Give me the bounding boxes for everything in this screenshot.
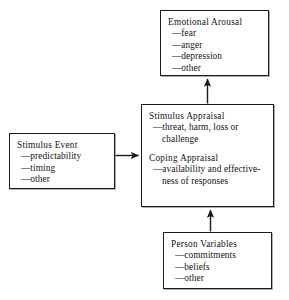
list-item-label: beliefs	[184, 262, 209, 272]
list-item-label: commitments	[184, 250, 236, 260]
list-item-label: depression	[181, 51, 222, 61]
emotional-arousal-list: —fear —anger —depression —other	[168, 28, 261, 74]
appraisal-section-divider	[149, 145, 266, 152]
stimulus-appraisal-heading: Stimulus Appraisal	[149, 110, 266, 122]
list-item: —depression	[168, 51, 261, 63]
box-person-variables: Person Variables —commitments —beliefs —…	[163, 232, 272, 289]
list-item: —other	[17, 174, 107, 186]
box-emotional-arousal: Emotional Arousal —fear —anger —depressi…	[160, 10, 269, 76]
stimulus-appraisal-list: —threat, harm, loss or challenge	[149, 122, 266, 145]
list-item: —other	[168, 63, 261, 75]
list-item: —timing	[17, 163, 107, 175]
list-item-label: other	[181, 63, 201, 73]
box-appraisal: Stimulus Appraisal —threat, harm, loss o…	[141, 104, 274, 207]
list-item: —other	[171, 273, 264, 285]
list-item: —threat, harm, loss or challenge	[149, 122, 266, 145]
box-stimulus-event: Stimulus Event —predictability —timing —…	[9, 133, 115, 189]
list-item-label: threat, harm, loss or challenge	[162, 122, 239, 144]
list-item-label: other	[30, 174, 50, 184]
list-item-label: fear	[181, 28, 196, 38]
list-item-label: other	[184, 273, 204, 283]
list-item: —fear	[168, 28, 261, 40]
list-item: —anger	[168, 40, 261, 52]
list-item: —predictability	[17, 151, 107, 163]
list-item-label: predictability	[30, 151, 81, 161]
list-item-label: timing	[30, 163, 55, 173]
person-variables-list: —commitments —beliefs —other	[171, 250, 264, 285]
person-variables-heading: Person Variables	[171, 238, 264, 250]
coping-appraisal-heading: Coping Appraisal	[149, 152, 266, 164]
emotional-arousal-heading: Emotional Arousal	[168, 16, 261, 28]
coping-appraisal-list: —availability and effective-ness of resp…	[149, 164, 266, 187]
list-item: —beliefs	[171, 262, 264, 274]
list-item-label: anger	[181, 40, 202, 50]
appraisal-model-diagram: Emotional Arousal —fear —anger —depressi…	[0, 0, 289, 300]
list-item-label: availability and effective-ness of respo…	[162, 164, 260, 186]
stimulus-event-heading: Stimulus Event	[17, 139, 107, 151]
stimulus-event-list: —predictability —timing —other	[17, 151, 107, 186]
list-item: —availability and effective-ness of resp…	[149, 164, 266, 187]
list-item: —commitments	[171, 250, 264, 262]
